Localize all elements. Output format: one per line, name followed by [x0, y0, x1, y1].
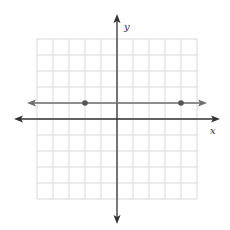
plotted-point [82, 100, 88, 106]
y-axis-label: y [123, 21, 130, 32]
coordinate-plane: x y [0, 0, 230, 230]
x-axis-label: x [210, 125, 216, 136]
plotted-point [178, 100, 184, 106]
